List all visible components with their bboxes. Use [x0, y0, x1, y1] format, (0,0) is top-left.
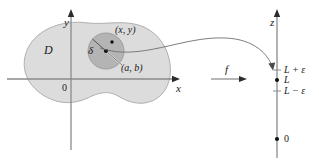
limit-value-marker — [275, 78, 279, 82]
y-axis-label: y — [64, 17, 69, 28]
z-origin-marker — [275, 137, 279, 141]
delta-label: δ — [88, 45, 93, 56]
function-label: f — [225, 64, 228, 75]
limit-definition-figure: y x D 0 δ (x, y) (a, b) f z L + ε L L − … — [0, 0, 319, 163]
domain-origin-label: 0 — [62, 83, 67, 93]
x-axis-label: x — [176, 83, 181, 94]
mapping-curve-arrowhead — [268, 63, 275, 71]
limit-value-label: L — [284, 75, 290, 85]
z-axis-arrowhead — [274, 9, 280, 17]
z-origin-label: 0 — [284, 134, 289, 144]
point-ab-label: (a, b) — [121, 63, 143, 73]
point-xy-marker — [110, 40, 113, 43]
function-arrow-head — [239, 76, 247, 82]
lower-bound-label: L − ε — [284, 86, 305, 96]
domain-region-label: D — [44, 44, 53, 56]
point-xy-label: (x, y) — [115, 25, 136, 35]
z-axis-label: z — [270, 17, 274, 28]
